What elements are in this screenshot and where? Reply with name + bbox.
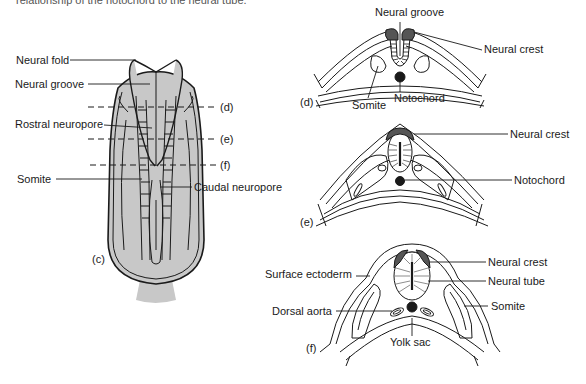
label-notochord-d: Notochord [394,92,445,104]
label-surface-ectoderm: Surface ectoderm [265,268,352,280]
panel-e-section [316,124,488,226]
label-somite-f: Somite [491,300,525,312]
label-notochord-e: Notochord [514,174,565,186]
marker-f: (f) [220,159,230,171]
marker-e: (e) [220,133,233,145]
panel-c-embryo [108,60,204,303]
panel-label-e: (e) [300,216,313,228]
marker-d: (d) [220,101,233,113]
label-neural-crest-f: Neural crest [488,256,547,268]
label-yolk-sac: Yolk sac [390,336,431,348]
embryo-diagram: Neural fold Neural groove Rostral neurop… [0,0,586,384]
label-somite-d: Somite [352,99,386,111]
label-neural-groove: Neural groove [15,78,84,90]
panel-label-c: (c) [92,253,105,265]
label-caudal-neuropore: Caudal neuropore [194,181,282,193]
label-dorsal-aorta: Dorsal aorta [272,305,333,317]
label-rostral-neuropore: Rostral neuropore [15,118,103,130]
panel-label-f: (f) [306,342,316,354]
label-neural-fold: Neural fold [16,54,69,66]
label-neural-tube: Neural tube [488,275,545,287]
label-somite-c: Somite [17,173,51,185]
label-neural-crest-e: Neural crest [510,128,569,140]
panel-label-d: (d) [300,96,313,108]
label-neural-groove-d: Neural groove [375,6,444,18]
label-neural-crest-d: Neural crest [484,43,543,55]
